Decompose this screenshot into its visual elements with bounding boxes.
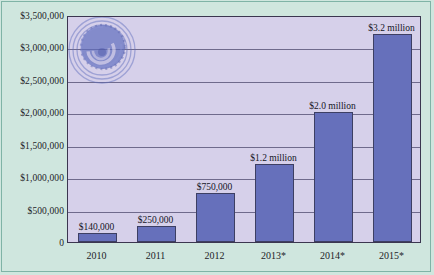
bar xyxy=(196,193,235,242)
y-axis-tick-label: $3,500,000 xyxy=(0,11,64,21)
y-axis-tick-label: $500,000 xyxy=(0,206,64,216)
x-axis-tick-label: 2013* xyxy=(261,250,286,261)
y-axis-tick-label: $2,500,000 xyxy=(0,76,64,86)
y-axis-tick-label: $1,000,000 xyxy=(0,173,64,183)
y-axis-labels: 0$500,000$1,000,000$1,500,000$2,000,000$… xyxy=(0,0,64,275)
bar-value-label: $1.2 million xyxy=(250,153,296,163)
y-axis-tick-label: 0 xyxy=(0,238,64,248)
y-axis-tick-label: $1,500,000 xyxy=(0,141,64,151)
bar-value-label: $250,000 xyxy=(138,215,174,225)
bar xyxy=(255,164,294,242)
x-axis-tick-label: 2012 xyxy=(205,250,225,261)
bar-value-label: $2.0 million xyxy=(309,101,355,111)
plot-area xyxy=(67,16,421,243)
bar xyxy=(373,34,412,242)
bar xyxy=(78,233,117,242)
y-axis-tick-label: $3,000,000 xyxy=(0,43,64,53)
bar-value-label: $750,000 xyxy=(197,182,233,192)
bar-value-label: $3.2 million xyxy=(368,23,414,33)
x-axis-tick-label: 2011 xyxy=(146,250,166,261)
bar-value-label: $140,000 xyxy=(79,222,115,232)
x-axis-tick-label: 2014* xyxy=(320,250,345,261)
x-axis-tick-label: 2010 xyxy=(87,250,107,261)
x-axis-tick-label: 2015* xyxy=(379,250,404,261)
bar xyxy=(137,226,176,242)
y-axis-tick-label: $2,000,000 xyxy=(0,108,64,118)
chart-container: 0$500,000$1,000,000$1,500,000$2,000,000$… xyxy=(0,0,434,275)
bars-group xyxy=(68,17,420,242)
bar xyxy=(314,112,353,242)
